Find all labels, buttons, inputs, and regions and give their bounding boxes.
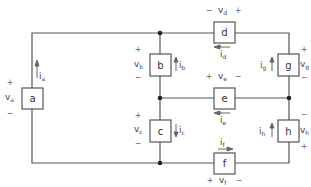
- voltage-g-minus: −: [301, 73, 308, 82]
- wire-left-lower: [32, 109, 214, 163]
- current-g-label: ig: [260, 60, 267, 72]
- current-d-label: id: [220, 49, 227, 60]
- element-h-label: h: [285, 126, 291, 137]
- element-c-label: c: [158, 126, 164, 137]
- node-bottom-middle: [158, 161, 163, 166]
- voltage-f-label: vf: [219, 175, 227, 186]
- voltage-a-minus: −: [7, 109, 14, 118]
- voltage-a-plus: +: [7, 78, 14, 87]
- element-b-label: b: [157, 60, 163, 71]
- voltage-b-plus: +: [135, 45, 142, 54]
- voltage-e-minus: −: [235, 72, 242, 81]
- voltage-d-minus: −: [206, 6, 213, 15]
- current-e-label: ie: [220, 115, 227, 126]
- current-c-arrowhead-icon: [174, 132, 178, 137]
- voltage-f-minus: −: [236, 176, 243, 185]
- current-a-label: ia: [39, 71, 46, 82]
- voltage-c-minus: −: [135, 139, 142, 148]
- current-b-label: ib: [179, 60, 186, 71]
- element-d-label: d: [221, 27, 227, 38]
- voltage-g-label: vg: [300, 59, 309, 71]
- element-g-label: g: [285, 60, 291, 71]
- element-f: f if + vf −: [207, 137, 243, 186]
- voltage-e-label: ve: [218, 71, 227, 82]
- current-g-arrowhead-icon: [270, 57, 274, 62]
- voltage-b-minus: −: [135, 73, 142, 82]
- voltage-e-plus: +: [206, 72, 213, 81]
- voltage-a-label: va: [5, 92, 14, 103]
- voltage-d-plus: +: [235, 6, 242, 15]
- current-h-label: ih: [259, 126, 266, 137]
- current-f-label: if: [220, 137, 226, 148]
- node-top-middle: [158, 31, 163, 36]
- wire-bottom-right: [235, 142, 289, 163]
- current-c-label: ic: [179, 125, 185, 136]
- circuit-diagram: a ia + va − b ib + vb − c ic + vc − d − …: [0, 0, 311, 187]
- current-a-arrowhead-icon: [35, 60, 39, 66]
- current-h-arrowhead-icon: [270, 123, 274, 128]
- element-a: a ia + va −: [5, 60, 46, 118]
- voltage-h-minus: −: [301, 110, 308, 119]
- voltage-h-plus: +: [301, 142, 308, 151]
- node-center-middle: [158, 96, 163, 101]
- current-f-arrowhead-icon: [227, 147, 233, 151]
- element-e-label: e: [221, 93, 227, 104]
- voltage-g-plus: +: [301, 45, 308, 54]
- voltage-h-label: vh: [300, 125, 309, 136]
- voltage-d-label: vd: [218, 5, 227, 16]
- current-b-arrowhead-icon: [174, 57, 178, 62]
- voltage-f-plus: +: [207, 176, 214, 185]
- element-f-label: f: [223, 158, 227, 169]
- voltage-c-label: vc: [134, 124, 143, 135]
- element-h: h ih − vh +: [259, 110, 309, 151]
- element-g: g ig + vg −: [260, 45, 309, 82]
- voltage-b-label: vb: [134, 59, 143, 70]
- element-a-label: a: [29, 93, 35, 104]
- voltage-c-plus: +: [135, 111, 142, 120]
- node-center-right: [287, 96, 292, 101]
